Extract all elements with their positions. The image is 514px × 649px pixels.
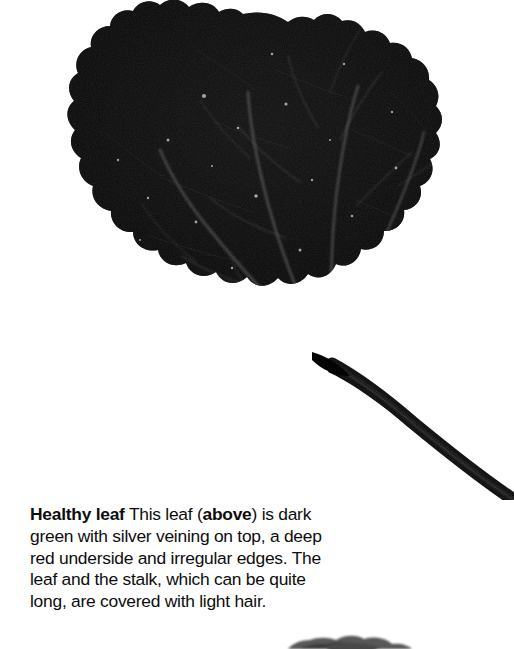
partial-figure-graphic xyxy=(0,628,514,649)
page-root: Healthy leaf This leaf (above) is dark g… xyxy=(0,0,514,649)
caption-lead-in: Healthy leaf xyxy=(30,504,125,524)
caption-text-part-1: This leaf ( xyxy=(125,504,203,524)
caption-emphasis: above xyxy=(203,504,252,524)
leaf-veins xyxy=(0,0,514,500)
leaf-blade xyxy=(0,0,514,500)
figure-caption: Healthy leaf This leaf (above) is dark g… xyxy=(30,504,330,612)
partial-figure-below xyxy=(0,628,514,649)
leaf-stalk xyxy=(328,362,514,500)
leaf-illustration xyxy=(0,0,514,500)
healthy-leaf-photograph xyxy=(0,0,514,500)
